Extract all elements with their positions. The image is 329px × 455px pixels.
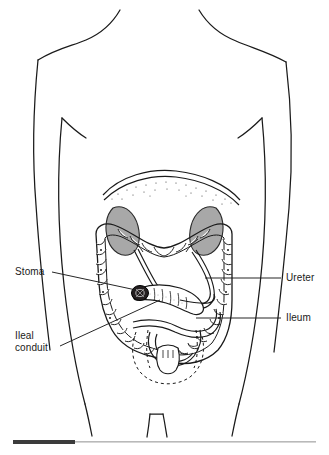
illustration-canvas: Stoma Ileal conduit Ureter Ileum <box>0 0 329 455</box>
label-stoma: Stoma <box>15 266 44 278</box>
leader-ileal-conduit <box>60 300 160 346</box>
urethral-stump <box>157 345 180 374</box>
label-ureter: Ureter <box>286 272 314 284</box>
torso-outline <box>34 10 292 437</box>
label-ileal-conduit: Ileal conduit <box>15 330 48 353</box>
label-ileal-conduit-line1: Ileal <box>15 330 48 342</box>
kidney-left <box>106 207 143 255</box>
omentum-band <box>103 170 240 205</box>
kidney-right <box>186 207 223 255</box>
label-ileum: Ileum <box>286 312 311 324</box>
leader-lines <box>52 272 281 346</box>
anatomy-drawing <box>0 0 329 455</box>
stoma-marker <box>132 286 149 301</box>
label-ileal-conduit-line2: conduit <box>15 342 48 354</box>
footer-rule <box>13 440 316 444</box>
